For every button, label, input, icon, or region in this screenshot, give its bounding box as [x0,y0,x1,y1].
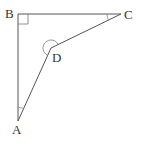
geometry-diagram: B C D A [0,0,145,149]
label-a: A [12,122,22,137]
segment-da [18,48,51,121]
angle-arc-c [107,14,109,20]
angle-arc-a [18,107,24,108]
label-b: B [5,6,14,21]
label-d: D [52,50,61,65]
right-angle-mark-b [18,14,28,24]
label-c: C [124,7,133,22]
segment-cd [51,14,121,48]
